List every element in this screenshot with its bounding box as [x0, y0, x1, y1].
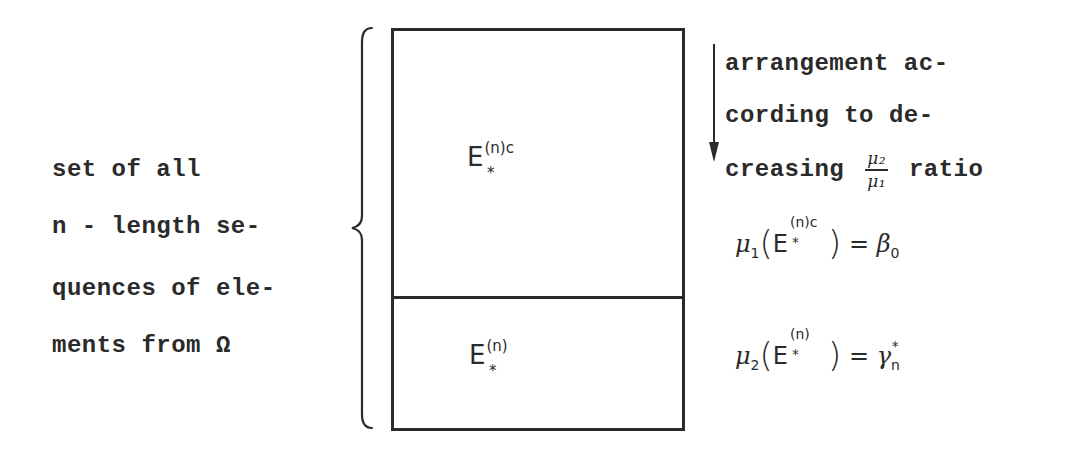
- description-line-2: n - length se-: [52, 213, 261, 240]
- description-line-1: set of all: [52, 156, 201, 183]
- region-label-complement: E(n)c *: [467, 142, 514, 172]
- annotation-line-2: cording to de-: [725, 102, 934, 129]
- annotation-line-1: arrangement ac-: [725, 50, 949, 77]
- curly-brace-icon: [340, 20, 380, 440]
- down-arrow-icon: [704, 42, 724, 164]
- description-line-4: ments from Ω: [52, 332, 231, 359]
- formula-mu2-typical-set: μ2(E(n)*) = γn*: [735, 335, 907, 375]
- sequence-space-box: E(n)c * E(n) *: [391, 28, 685, 431]
- annotation-line-3: creasing μ₂ μ₁ ratio: [725, 150, 983, 190]
- asterisk-subscript: *: [489, 362, 497, 380]
- formula-mu1-complement: μ1(E(n)c*) = β0: [735, 223, 899, 263]
- ratio-fraction: μ₂ μ₁: [865, 150, 888, 190]
- region-label-typical-set: E(n) *: [469, 340, 508, 370]
- description-line-3: quences of ele-: [52, 275, 276, 302]
- asterisk-subscript: *: [487, 164, 495, 182]
- region-divider: [394, 296, 682, 299]
